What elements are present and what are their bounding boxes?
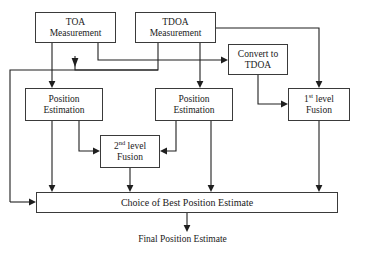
arrowhead-second-level-fusion-to-choice <box>127 185 134 192</box>
node-tdoa-measurement-line1: TDOA <box>162 17 188 28</box>
node-first-level-fusion-line1: 1st level <box>304 94 334 105</box>
node-tdoa-measurement[interactable]: TDOA Measurement <box>135 12 216 43</box>
wire-toa-to-convert <box>98 43 222 60</box>
node-first-level-fusion[interactable]: 1st level Fusion <box>288 88 350 121</box>
node-first-level-fusion-line2: Fusion <box>306 105 332 116</box>
node-first-level-fusion-suffix: level <box>313 94 334 104</box>
node-second-level-fusion[interactable]: 2nd level Fusion <box>100 135 160 168</box>
arrowhead-position-left-to-second-level-fusion <box>93 148 100 155</box>
node-toa-measurement-line2: Measurement <box>50 28 102 39</box>
wire-tdoa-to-left-branch <box>75 43 158 70</box>
arrowhead-toa-to-convert <box>221 57 228 64</box>
node-choice-of-best-position-estimate-label: Choice of Best Position Estimate <box>121 197 253 208</box>
node-toa-measurement-line1: TOA <box>66 17 85 28</box>
arrowhead-first-level-fusion-to-choice <box>316 185 323 192</box>
node-position-estimation-left[interactable]: Position Estimation <box>25 88 103 121</box>
arrowhead-tdoa-to-position-middle <box>197 81 204 88</box>
node-position-estimation-left-line1: Position <box>48 94 79 105</box>
arrowhead-tdoa-to-left-branch <box>72 58 79 67</box>
arrowhead-position-left-to-choice <box>49 185 56 192</box>
node-convert-to-tdoa-line2: TDOA <box>245 60 271 71</box>
node-convert-to-tdoa[interactable]: Convert to TDOA <box>228 44 288 75</box>
node-tdoa-measurement-line2: Measurement <box>150 28 202 39</box>
arrowhead-position-middle-to-choice <box>208 185 215 192</box>
label-final-position-estimate: Final Position Estimate <box>0 234 365 244</box>
wire-position-middle-to-second-level-fusion <box>166 121 176 151</box>
node-position-estimation-middle-line1: Position <box>178 94 209 105</box>
node-position-estimation-middle-line2: Estimation <box>173 105 214 116</box>
node-convert-to-tdoa-line1: Convert to <box>238 49 278 60</box>
arrowhead-toa-to-position-left <box>49 81 56 88</box>
node-position-estimation-middle[interactable]: Position Estimation <box>155 88 233 121</box>
flowchart-diagram: TOA Measurement TDOA Measurement Convert… <box>0 0 365 254</box>
node-position-estimation-left-line2: Estimation <box>43 105 84 116</box>
node-second-level-fusion-suffix: level <box>125 141 146 151</box>
node-toa-measurement[interactable]: TOA Measurement <box>35 12 116 43</box>
node-choice-of-best-position-estimate[interactable]: Choice of Best Position Estimate <box>36 192 338 213</box>
node-second-level-fusion-line2: Fusion <box>117 152 143 163</box>
arrowhead-bottom-left-entry <box>29 199 36 206</box>
arrowhead-position-middle-to-second-level-fusion <box>160 148 167 155</box>
arrowhead-convert-to-first-level-fusion <box>281 101 288 108</box>
node-second-level-fusion-line1: 2nd level <box>114 141 146 152</box>
wire-convert-to-first-level-fusion <box>258 75 282 104</box>
wire-position-left-to-second-level-fusion <box>79 121 94 151</box>
arrowhead-tdoa-to-first-level-fusion <box>316 81 323 88</box>
arrowhead-choice-to-final <box>184 225 191 232</box>
